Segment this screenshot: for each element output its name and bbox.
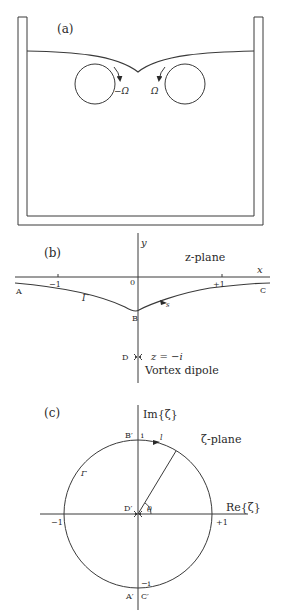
re-axis-label: Re{ζ} [226,501,261,514]
panel-a [18,17,263,225]
point-a-label: A [15,287,22,296]
point-d-label: D [122,353,128,362]
tick-minus-one-label: −1 [49,280,61,289]
point-b-label: B [132,314,138,323]
arc-length-label: s [166,301,170,309]
y-axis-label: y [140,237,147,248]
tick-minus-one-label-c: −1 [51,518,63,527]
point-c-label: C [260,286,266,295]
tick-plus-one-label-c: +1 [216,518,228,527]
left-vortex-circle [75,64,115,104]
tick-i-label: i [141,431,144,440]
point-c-prime-label: C′ [141,592,149,601]
left-vortex-omega-label: −Ω [114,86,130,96]
gamma-circle-label: Γ [80,469,87,478]
x-axis-label: x [257,264,263,275]
free-surface-curve [27,51,254,72]
panel-a-label: (a) [57,22,74,36]
zeta-plane-label: ζ-plane [201,433,241,446]
z-plane-label: z-plane [185,251,225,264]
right-rotation-arrow-icon [159,67,165,80]
radius-line [138,451,176,514]
figure-canvas: (a) −Ω Ω (b) y z-plane x −1 0 +1 A C B Γ… [0,0,285,610]
right-vortex-omega-label: Ω [150,86,159,96]
gamma-curve-label: Γ [81,293,89,303]
panel-b-label: (b) [44,246,61,260]
left-rotation-arrow-icon [114,67,120,80]
dipole-position-label: z = −i [150,351,183,362]
arc-direction-arrow-icon [153,440,160,445]
tank-outer-wall [18,17,263,225]
vortex-dipole-label: Vortex dipole [144,364,219,377]
panel-c-label: (c) [44,406,60,420]
point-d-prime-label: D′ [124,504,132,513]
arc-label: l [160,433,163,442]
tick-zero-label: 0 [130,278,135,287]
theta-label: θ [147,505,152,514]
tick-minus-i-label: −i [141,579,151,588]
right-vortex-circle [165,64,205,104]
im-axis-label: Im{ζ} [143,408,178,421]
tick-plus-one-label: +1 [213,280,225,289]
point-a-prime-label: A′ [125,592,134,601]
point-b-prime-label: B′ [125,431,133,440]
